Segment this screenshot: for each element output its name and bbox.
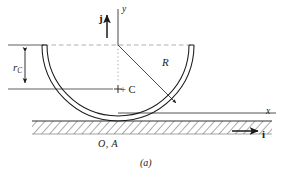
label-unit-vector-j: j [99,13,103,24]
figure-caption: (a) [140,158,152,168]
label-rc: rC [13,62,22,75]
label-contact-point: O, A [98,139,118,149]
ground-hatching [32,121,272,134]
label-center-point: + C [120,85,136,96]
label-unit-vector-i: i [262,129,265,140]
diagram-canvas [0,0,292,177]
label-axis-y: y [122,5,126,15]
label-axis-x: x [266,107,270,117]
label-radius: R [162,57,169,68]
figure-container: rC R + C y x j i O, A (a) [0,0,292,177]
